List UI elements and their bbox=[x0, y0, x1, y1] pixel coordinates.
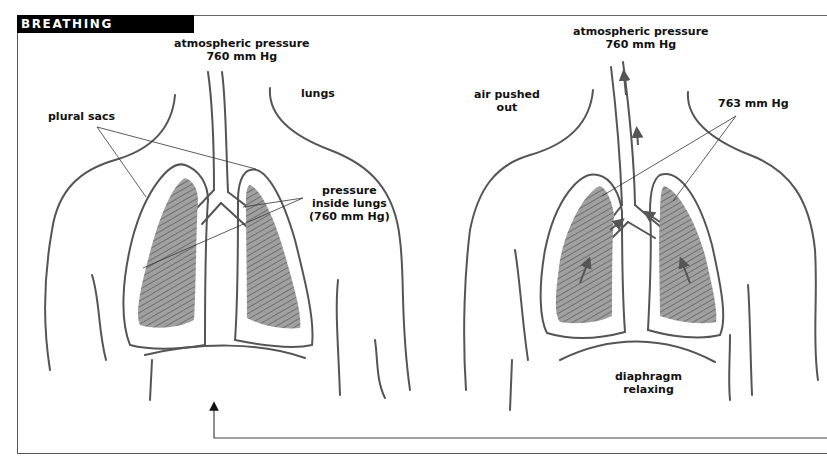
lungs-label: lungs bbox=[301, 87, 335, 100]
pressure-line-3: (760 mm Hg) bbox=[309, 210, 390, 223]
diaphragm-line-1: diaphragm bbox=[615, 370, 682, 383]
pressure-line-2: inside lungs bbox=[309, 197, 390, 210]
left-atmospheric-value: 760 mm Hg bbox=[174, 50, 310, 63]
air-pushed-out-label: air pushed out bbox=[474, 88, 540, 114]
plural-sacs-label: plural sacs bbox=[48, 110, 115, 123]
right-atmospheric-text: atmospheric pressure bbox=[573, 25, 709, 38]
pressure-line-1: pressure bbox=[309, 184, 390, 197]
breathing-illustration bbox=[0, 0, 827, 456]
left-atmospheric-label: atmospheric pressure 760 mm Hg bbox=[174, 37, 310, 63]
left-atmospheric-text: atmospheric pressure bbox=[174, 37, 310, 50]
diaphragm-relaxing-label: diaphragm relaxing bbox=[615, 370, 682, 396]
air-line-1: air pushed bbox=[474, 88, 540, 101]
right-atmospheric-label: atmospheric pressure 760 mm Hg bbox=[573, 25, 709, 51]
air-line-2: out bbox=[474, 101, 540, 114]
right-atmospheric-value: 760 mm Hg bbox=[573, 38, 709, 51]
right-torso bbox=[464, 62, 818, 410]
diaphragm-line-2: relaxing bbox=[615, 383, 682, 396]
lung-pressure-763-label: 763 mm Hg bbox=[718, 97, 789, 110]
cycle-arrow bbox=[214, 406, 827, 438]
left-lungs bbox=[138, 178, 300, 328]
pressure-inside-lungs-label: pressure inside lungs (760 mm Hg) bbox=[309, 184, 390, 223]
